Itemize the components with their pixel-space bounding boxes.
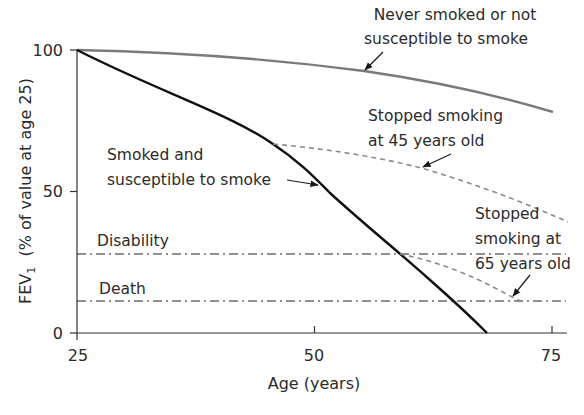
y-axis-title: FEV1 (% of value at age 25) bbox=[16, 78, 38, 304]
annotation-stopped-45: Stopped smoking at 45 years old bbox=[368, 107, 503, 167]
stopped-65-label-line3: 65 years old bbox=[475, 255, 571, 273]
stopped-65-arrow bbox=[513, 275, 530, 296]
never-smoked-label-line1: Never smoked or not bbox=[374, 6, 537, 24]
fev1-decline-chart: 100 50 0 25 50 75 Age (years) FEV1 (% of… bbox=[0, 0, 584, 415]
smoked-arrow bbox=[287, 180, 318, 185]
y-tick-label-100: 100 bbox=[32, 41, 63, 60]
smoked-label-line1: Smoked and bbox=[107, 146, 203, 164]
x-tick-labels: 25 50 75 bbox=[68, 346, 561, 365]
never-smoked-curve bbox=[77, 50, 553, 112]
x-axis-title: Age (years) bbox=[268, 374, 361, 393]
disability-label: Disability bbox=[97, 232, 169, 250]
never-smoked-label-line2: susceptible to smoke bbox=[364, 30, 528, 48]
y-axis-title-main: FEV bbox=[16, 274, 35, 304]
death-label: Death bbox=[99, 280, 146, 298]
stopped-65-label-line1: Stopped bbox=[475, 205, 539, 223]
never-smoked-arrow bbox=[365, 52, 383, 70]
stopped-45-arrow bbox=[423, 154, 451, 167]
y-tick-label-0: 0 bbox=[53, 324, 63, 343]
y-tick-label-50: 50 bbox=[43, 182, 63, 201]
annotation-stopped-65: Stopped smoking at 65 years old bbox=[475, 205, 571, 296]
smoked-label-line2: susceptible to smoke bbox=[107, 171, 271, 189]
y-tick-labels: 100 50 0 bbox=[32, 41, 63, 343]
y-axis-title-subscript: 1 bbox=[25, 267, 38, 274]
y-axis-title-rest: (% of value at age 25) bbox=[16, 78, 35, 267]
annotation-never-smoked: Never smoked or not susceptible to smoke bbox=[364, 6, 536, 70]
stopped-45-label-line2: at 45 years old bbox=[368, 132, 484, 150]
stopped-65-label-line2: smoking at bbox=[475, 230, 561, 248]
x-tick-label-25: 25 bbox=[68, 346, 88, 365]
x-tick-label-50: 50 bbox=[304, 346, 324, 365]
x-tick-label-75: 75 bbox=[541, 346, 561, 365]
stopped-45-label-line1: Stopped smoking bbox=[368, 107, 503, 125]
